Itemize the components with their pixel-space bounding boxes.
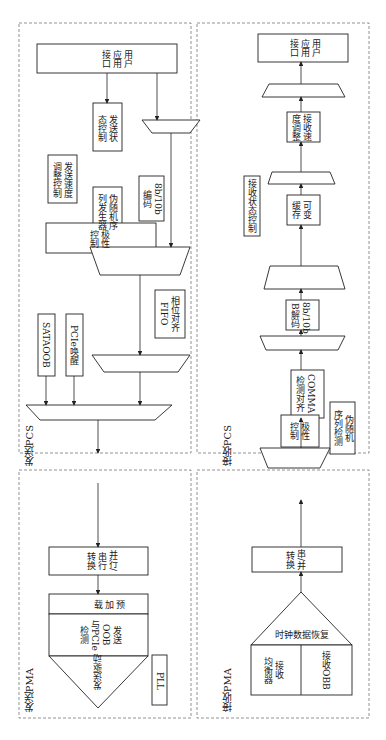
pll-block: PLL	[154, 665, 165, 697]
region-label-tx-pcs: 发送PCS	[22, 425, 37, 466]
encoder-8b10b-block: 8b/10b 编码	[141, 178, 163, 220]
region-label-rx-pma: 接收PMA	[220, 668, 235, 712]
tx-rate-adjust-block: 发送速度 调整控制	[51, 158, 73, 202]
rx-polarity-control-block: 极性 控制	[288, 417, 310, 445]
region-label-rx-pcs: 接收PCS	[220, 425, 235, 466]
tx-oob-pcie-detect-block: 发送 OOB 与PCIe 检测	[78, 615, 122, 655]
rx-state-control-block: 接收状态控制	[246, 178, 257, 234]
comma-align-block: COMMA 检测对齐	[294, 372, 316, 416]
tx-driver-block: 发送驱动	[92, 660, 103, 690]
pcie-wake-block: PCIe唤醒	[68, 316, 79, 374]
cdr-block: 时钟数据恢复	[262, 630, 342, 641]
rx-oob-block: 接收OBB	[320, 648, 331, 692]
sata-oob-block: SATAOOB	[40, 316, 51, 374]
region-label-tx-pma: 发送PMA	[22, 668, 37, 712]
tx-polarity-control-block: 极性 控制	[88, 226, 110, 252]
diagram-canvas	[0, 0, 386, 740]
tx-user-interface-block: 用户 应用 接口	[100, 46, 133, 72]
decoder-8b10b-block: 8b/10b B解码	[289, 302, 311, 328]
rx-user-interface-block: 用户 应用 接口	[288, 36, 321, 60]
rx-equalizer-block: 接收 均衡器	[262, 648, 284, 692]
elastic-buffer-block: 可变 缓存	[290, 197, 312, 223]
rx-rate-adjust-block: 接收速 度调整	[290, 114, 312, 140]
preemphasis-block: 预 加 载	[92, 595, 125, 613]
serial-to-parallel-block: 串/并 转换	[284, 549, 306, 571]
parallel-to-serial-block: 并行/ 串行 转换	[85, 549, 118, 573]
phase-align-fifo-block: 相位对齐 FIFO	[158, 292, 180, 336]
tx-state-control-block: 发送状 态控制	[96, 106, 118, 150]
prbs-check-block: 伪随机 序列检测	[332, 404, 354, 452]
